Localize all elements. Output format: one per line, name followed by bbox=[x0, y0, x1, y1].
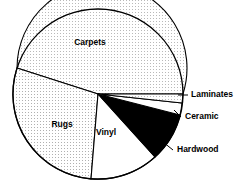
pie-chart-svg: Carpets Rugs Vinyl Laminates Ceramic Har… bbox=[0, 0, 252, 188]
pie-chart-figure: Carpets Rugs Vinyl Laminates Ceramic Har… bbox=[0, 0, 252, 188]
slice-label-vinyl: Vinyl bbox=[96, 127, 116, 137]
callout-label-hardwood: Hardwood bbox=[177, 144, 219, 154]
slice-label-carpets: Carpets bbox=[74, 37, 106, 47]
callout-label-ceramic: Ceramic bbox=[185, 111, 219, 121]
slice-label-rugs: Rugs bbox=[51, 119, 73, 129]
callout-label-laminates: Laminates bbox=[191, 89, 233, 99]
